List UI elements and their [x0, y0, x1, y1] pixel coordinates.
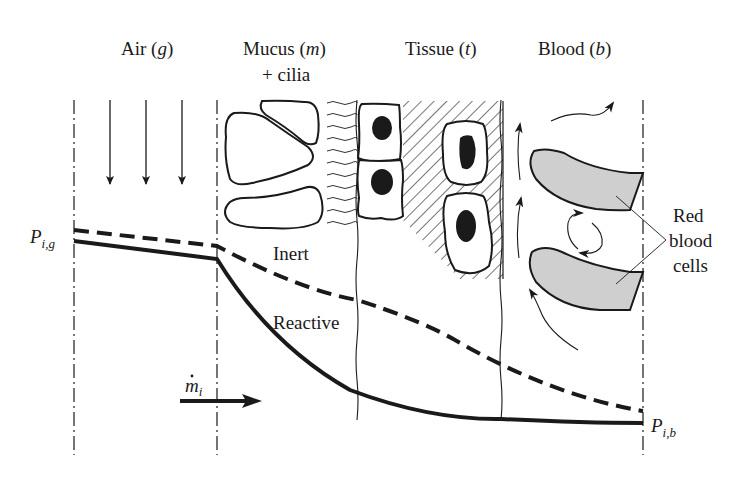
svg-text:blood: blood — [669, 230, 713, 251]
cilia — [327, 102, 357, 225]
airflow-arrows — [110, 100, 182, 184]
region-label-tissue: Tissue (t) — [405, 38, 477, 60]
region-label-air: Air (g) — [121, 38, 173, 60]
reactive-curve-label: Reactive — [273, 312, 339, 333]
flux-dot-accent — [191, 375, 194, 378]
svg-text:Red: Red — [673, 205, 704, 226]
mucus-cells — [225, 101, 323, 229]
red-blood-cells — [530, 149, 643, 310]
svg-text:cells: cells — [673, 255, 708, 276]
region-label-mucus: Mucus (m) — [243, 38, 326, 60]
rbc-annotation: Red blood cells — [669, 205, 713, 276]
diagram-canvas: Air (g) Mucus (m) + cilia Tissue (t) Blo… — [0, 0, 744, 487]
region-labels: Air (g) Mucus (m) + cilia Tissue (t) Blo… — [121, 38, 611, 85]
mass-flux-label: mi — [185, 375, 203, 399]
inert-curve-label: Inert — [273, 243, 310, 264]
air-partial-pressure-label: Pi,g — [29, 226, 55, 251]
blood-flow-arrows — [517, 103, 613, 350]
blood-partial-pressure-label: Pi,b — [650, 415, 676, 440]
region-label-blood: Blood (b) — [538, 38, 611, 60]
region-sublabel-cilia: + cilia — [262, 64, 311, 85]
mucus-tissue-boundary — [356, 100, 358, 420]
mass-flux-indicator: mi — [180, 375, 262, 408]
